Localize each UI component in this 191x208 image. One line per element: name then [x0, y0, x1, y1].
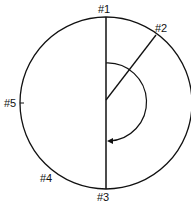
label-3: #3 — [97, 191, 109, 203]
radial-line-2 — [106, 35, 156, 100]
label-4: #4 — [40, 172, 52, 184]
arrowhead-icon — [107, 138, 113, 144]
circle-diagram: #1 #2 #3 #4 #5 — [0, 0, 191, 208]
label-5: #5 — [4, 97, 16, 109]
label-2: #2 — [155, 22, 167, 34]
label-1: #1 — [98, 3, 110, 15]
